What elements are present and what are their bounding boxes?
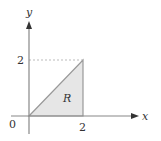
region-r [29, 60, 83, 116]
x-axis-label: x [142, 110, 149, 123]
y-axis-arrow-icon [26, 21, 32, 29]
diagram-canvas: y x 0 2 2 R [0, 0, 161, 141]
region-label: R [62, 92, 71, 105]
x-tick-label: 2 [79, 121, 86, 134]
y-tick-label: 2 [17, 54, 24, 67]
y-axis-label: y [25, 6, 33, 19]
x-axis-arrow-icon [131, 113, 139, 119]
origin-label: 0 [9, 118, 16, 131]
